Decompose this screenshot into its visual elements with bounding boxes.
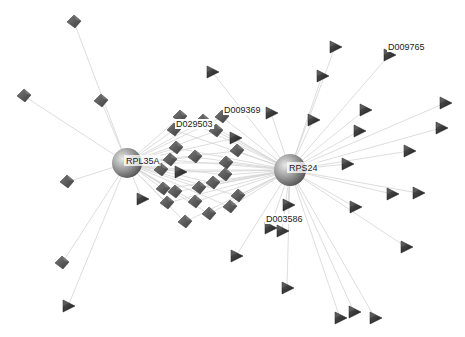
drug-node-cube[interactable] [169,141,183,154]
hub-label: RPS24 [289,163,318,173]
edge-layer [24,22,445,318]
node-label: D029503 [175,119,214,129]
drug-node-cube[interactable] [17,89,31,102]
disease-node-triangle[interactable] [207,66,219,78]
svg-text:D003586: D003586 [266,214,303,224]
disease-node-triangle[interactable] [436,122,448,134]
edge [290,55,389,170]
hub-node-rpl35a[interactable]: RPL35A [112,148,161,178]
edge [24,96,127,163]
disease-node-triangle[interactable] [330,41,342,53]
disease-node-triangle[interactable] [282,282,294,294]
disease-node-triangle[interactable] [354,125,366,137]
disease-node-triangle[interactable] [370,312,382,324]
drug-node-cube[interactable] [231,189,245,202]
drug-node-cube[interactable] [163,153,177,166]
drug-node-cube[interactable] [219,156,233,169]
edge [62,163,127,263]
drug-node-cube[interactable] [202,207,216,220]
edge [74,22,127,163]
disease-node-triangle[interactable] [387,188,399,200]
hub-label: RPL35A [126,156,160,166]
disease-node-triangle[interactable] [63,300,75,312]
disease-node-triangle[interactable] [440,97,452,109]
svg-text:D009369: D009369 [224,105,261,115]
drug-node-cube[interactable] [60,175,74,188]
disease-node-triangle[interactable] [308,114,320,126]
disease-node-triangle[interactable] [349,306,361,318]
svg-text:D009765: D009765 [388,42,425,52]
drug-node-cube[interactable] [55,256,69,269]
network-diagram: RPL35ARPS24 D029503D009369D009765D003586 [0,0,465,337]
edge [68,163,127,306]
drug-node-cube[interactable] [230,144,244,157]
node-label: D009765 [387,42,426,52]
svg-text:D029503: D029503 [176,119,213,129]
disease-node-triangle[interactable] [401,241,413,253]
disease-node-triangle[interactable] [137,193,149,205]
edge [290,103,445,170]
drug-node-cube[interactable] [94,94,108,107]
drug-node-cube[interactable] [67,15,81,28]
disease-node-triangle[interactable] [350,201,362,213]
edge [290,170,418,193]
disease-node-triangle[interactable] [335,312,347,324]
disease-node-triangle[interactable] [231,250,243,262]
node-layer [17,15,452,324]
disease-node-triangle[interactable] [360,104,372,116]
disease-node-triangle[interactable] [277,225,289,237]
disease-node-triangle[interactable] [404,145,416,157]
disease-node-triangle[interactable] [413,187,425,199]
node-label: D003586 [265,214,304,224]
drug-node-cube[interactable] [156,182,170,195]
hub-node-rps24[interactable]: RPS24 [274,154,318,186]
drug-node-cube[interactable] [188,150,202,163]
node-label: D009369 [223,105,262,115]
